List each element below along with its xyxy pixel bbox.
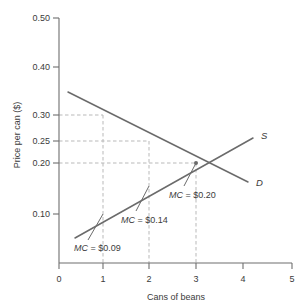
supply-demand-chart: 0.50 0.40 0.30 0.25 0.20 0.10 Price per …	[0, 0, 305, 308]
annotation-mc2: MC = $0.14	[121, 215, 168, 225]
y-axis-tick-labels: 0.50 0.40 0.30 0.25 0.20 0.10	[32, 13, 50, 219]
leader-line-mc1	[88, 214, 103, 240]
y-tick-label-050: 0.50	[32, 13, 50, 23]
demand-curve-label: D	[256, 177, 263, 188]
x-tick-label-5: 5	[289, 274, 294, 284]
leader-line-mc3	[184, 163, 196, 186]
x-tick-label-3: 3	[193, 274, 198, 284]
y-axis-title: Price per can ($)	[12, 102, 22, 169]
x-tick-label-1: 1	[100, 274, 105, 284]
chart-svg: 0.50 0.40 0.30 0.25 0.20 0.10 Price per …	[0, 0, 305, 308]
annotation-mc3: MC = $0.20	[169, 190, 216, 200]
annotation-mc2-symbol: MC	[121, 215, 135, 225]
x-axis-tick-labels: 0 1 2 3 4 5	[56, 274, 294, 284]
x-axis-ticks	[59, 263, 292, 269]
annotation-mc1: MC = $0.09	[74, 243, 121, 253]
x-tick-label-4: 4	[240, 274, 245, 284]
annotation-mc3-value: = $0.20	[183, 190, 216, 200]
y-tick-label-025: 0.25	[32, 136, 50, 146]
y-tick-label-040: 0.40	[32, 62, 50, 72]
y-tick-label-010: 0.10	[32, 209, 50, 219]
axes	[59, 18, 292, 263]
x-tick-label-0: 0	[56, 274, 61, 284]
y-axis-ticks	[53, 18, 59, 214]
supply-curve-label: S	[261, 130, 268, 141]
demand-curve	[68, 92, 248, 182]
annotation-mc2-value: = $0.14	[135, 215, 168, 225]
annotation-mc1-value: = $0.09	[88, 243, 121, 253]
y-tick-label-020: 0.20	[32, 158, 50, 168]
leader-line-mc2	[136, 186, 149, 211]
guide-lines	[59, 115, 196, 263]
annotation-leaders	[88, 163, 196, 240]
y-tick-label-030: 0.30	[32, 110, 50, 120]
x-axis-title: Cans of beans	[147, 292, 206, 302]
annotation-mc3-symbol: MC	[169, 190, 183, 200]
x-tick-label-2: 2	[146, 274, 151, 284]
annotation-mc1-symbol: MC	[74, 243, 88, 253]
